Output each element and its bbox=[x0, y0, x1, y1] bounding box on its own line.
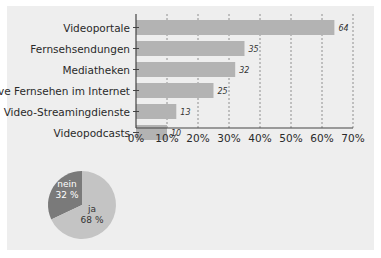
x-tick-label: 40% bbox=[248, 132, 271, 144]
value-label: 10 bbox=[171, 129, 181, 138]
category-label: live Fernsehen im Internet bbox=[0, 85, 130, 97]
pie-chart: nein32 %ja68 % bbox=[48, 171, 116, 239]
bar bbox=[136, 104, 176, 119]
category-label: Videopodcasts bbox=[54, 127, 130, 139]
category-label: Video-Streamingdienste bbox=[4, 106, 130, 118]
x-tick-label: 30% bbox=[217, 132, 240, 144]
pie-slice-value: 68 % bbox=[81, 215, 104, 225]
category-label: Fernsehsendungen bbox=[30, 43, 130, 55]
x-tick-label: 0% bbox=[128, 132, 145, 144]
value-label: 32 bbox=[239, 66, 249, 75]
x-tick-label: 20% bbox=[186, 132, 209, 144]
bar bbox=[136, 83, 214, 98]
value-label: 25 bbox=[218, 87, 228, 96]
value-label: 13 bbox=[180, 108, 190, 117]
bars bbox=[136, 20, 334, 140]
x-tick-labels: 0%10%20%30%40%50%60%70% bbox=[128, 132, 365, 144]
category-label: Mediatheken bbox=[62, 64, 130, 76]
value-label: 64 bbox=[338, 24, 348, 33]
category-labels: VideoportaleFernsehsendungenMediathekenl… bbox=[0, 22, 130, 139]
pie-slice-label: nein bbox=[57, 179, 76, 189]
value-label: 35 bbox=[249, 45, 259, 54]
pie-slice-label: ja bbox=[87, 204, 96, 214]
category-label: Videoportale bbox=[63, 22, 130, 34]
chart-svg: VideoportaleFernsehsendungenMediathekenl… bbox=[0, 0, 381, 258]
bar bbox=[136, 20, 334, 35]
bar bbox=[136, 62, 235, 77]
x-tick-label: 70% bbox=[341, 132, 364, 144]
value-labels: 643532251310 bbox=[171, 24, 349, 138]
x-tick-label: 60% bbox=[310, 132, 333, 144]
bar bbox=[136, 41, 245, 56]
pie-slice-value: 32 % bbox=[56, 190, 79, 200]
x-tick-label: 50% bbox=[279, 132, 302, 144]
